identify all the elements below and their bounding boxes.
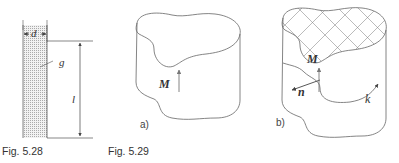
- label-d: d: [31, 27, 37, 39]
- label-M-b: M: [306, 52, 318, 66]
- label-M-a: M: [158, 77, 170, 91]
- magnet-slab: [23, 25, 47, 138]
- fig-5-29a-diagram: [136, 13, 240, 119]
- panel-a-tag: a): [140, 119, 149, 130]
- caption-fig-5-28: Fig. 5.28: [2, 145, 43, 157]
- fig-5-28-diagram: d g l: [23, 20, 93, 138]
- label-g: g: [59, 56, 65, 68]
- panel-b-tag: b): [276, 117, 285, 128]
- label-l: l: [72, 93, 75, 105]
- figure-canvas: d g l M a): [0, 0, 399, 163]
- fig-5-29b-diagram: [270, 0, 395, 137]
- label-n: n: [298, 85, 305, 99]
- caption-fig-5-29: Fig. 5.29: [108, 145, 149, 157]
- label-k: k: [365, 92, 371, 106]
